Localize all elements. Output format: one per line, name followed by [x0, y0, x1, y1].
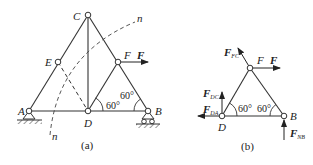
section-label-top: n — [137, 12, 143, 24]
force-label-FC: FFC — [223, 46, 240, 59]
node-label-A: A — [17, 105, 25, 117]
section-line-n — [50, 22, 135, 135]
node-label-B: B — [155, 105, 162, 117]
truss-diagram: n n 60° 60° F F — [0, 0, 313, 165]
angle-label-D-b: 60° — [238, 103, 252, 114]
node-label-F: F — [123, 49, 131, 61]
force-arrow-FC — [238, 48, 250, 68]
angle-arc-D-b — [230, 103, 238, 116]
force-label-F: F — [136, 49, 145, 61]
figure-b: 60° 60° FFC F F FDC FDA FNB D B (b) — [198, 46, 305, 153]
section-label-bottom: n — [52, 130, 58, 142]
node-label-E: E — [44, 56, 52, 68]
joints-b — [219, 65, 287, 119]
angle-arc-B — [134, 99, 141, 111]
force-label-NB: FNB — [289, 127, 305, 140]
angle-label-D: 60° — [106, 100, 120, 111]
node-label-F-b: F — [256, 54, 264, 66]
node-label-B-b: B — [290, 110, 297, 122]
force-label-DA: FDA — [202, 103, 219, 116]
caption-a: (a) — [81, 139, 94, 152]
angle-label-B: 60° — [120, 90, 134, 101]
figure-a: n n 60° 60° F F — [17, 10, 162, 152]
angle-arc-D — [96, 98, 103, 111]
angle-label-B-b: 60° — [257, 103, 271, 114]
node-label-D: D — [83, 117, 92, 129]
caption-b: (b) — [241, 140, 254, 153]
force-label-F-b: F — [269, 54, 278, 66]
node-label-C: C — [73, 10, 81, 22]
force-label-DC: FDC — [202, 87, 220, 100]
node-label-D-b: D — [217, 121, 226, 133]
free-body-members — [222, 68, 284, 116]
